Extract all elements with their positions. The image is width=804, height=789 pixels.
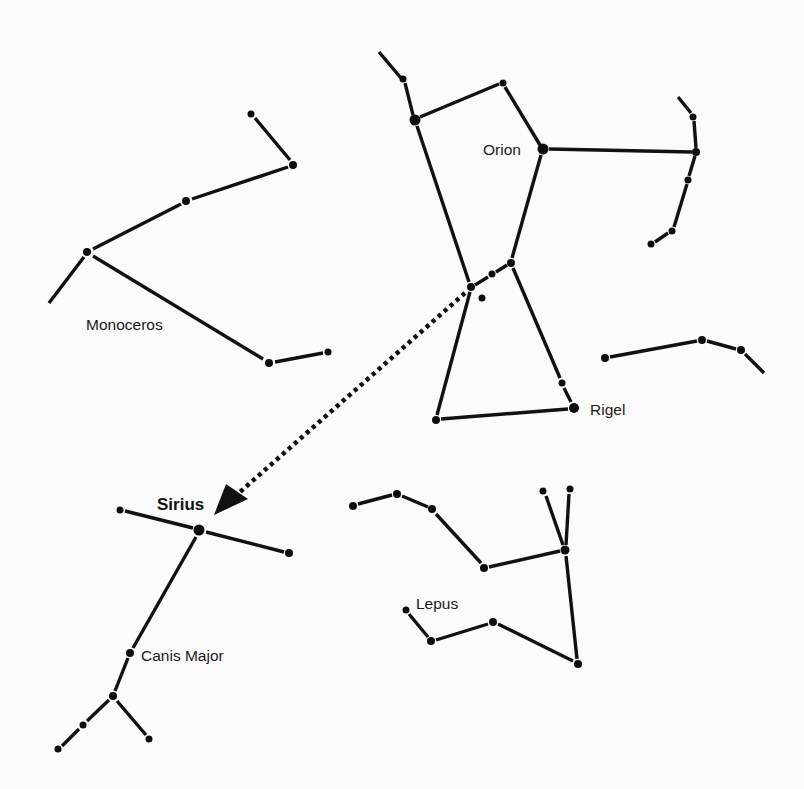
star (248, 111, 255, 118)
star-belt-mintaka (507, 259, 515, 267)
star (669, 228, 676, 235)
star (574, 660, 582, 668)
label-sirius: Sirius (157, 495, 204, 514)
star (349, 502, 357, 510)
star-betelgeuse (410, 115, 421, 126)
star (690, 114, 697, 121)
star (285, 549, 293, 557)
constellation-lepus: Lepus (349, 486, 582, 669)
star (55, 746, 62, 753)
label-orion: Orion (483, 141, 521, 158)
star (182, 197, 190, 205)
star (126, 649, 134, 657)
star (325, 349, 332, 356)
star (403, 607, 410, 614)
constellation-orion: Orion Rigel (379, 52, 700, 424)
star (427, 637, 435, 645)
arrowhead-icon (214, 484, 248, 515)
star (479, 295, 486, 302)
star (648, 241, 655, 248)
star (109, 692, 117, 700)
star (428, 505, 436, 513)
star-saiph (432, 416, 440, 424)
star (540, 488, 547, 495)
star (567, 486, 574, 493)
star (117, 507, 124, 514)
star (400, 76, 407, 83)
label-rigel: Rigel (590, 401, 625, 418)
constellation-canis-major: Sirius Canis Major (55, 495, 294, 753)
star (698, 336, 706, 344)
label-monoceros: Monoceros (86, 316, 163, 333)
star (80, 722, 87, 729)
star (692, 148, 700, 156)
star-bellatrix (538, 144, 549, 155)
constellation-fragment-right (601, 336, 764, 373)
star (561, 546, 570, 555)
star-sirius (194, 525, 205, 536)
star-chart: Orion Rigel Monoceros (0, 0, 804, 789)
star (83, 248, 91, 256)
star (289, 161, 297, 169)
star (685, 177, 692, 184)
star (559, 380, 566, 387)
star (500, 80, 507, 87)
star (265, 359, 273, 367)
label-lepus: Lepus (416, 595, 458, 612)
star (393, 490, 401, 498)
star (146, 736, 153, 743)
constellation-monoceros: Monoceros (49, 111, 332, 368)
label-canis-major: Canis Major (141, 647, 224, 664)
star (601, 354, 609, 362)
star-belt-alnilam (489, 271, 496, 278)
star (489, 618, 497, 626)
pointer-arrow (214, 293, 465, 515)
star (480, 564, 488, 572)
star-rigel (569, 403, 579, 413)
star (737, 346, 745, 354)
star-belt-alnitak (467, 283, 475, 291)
